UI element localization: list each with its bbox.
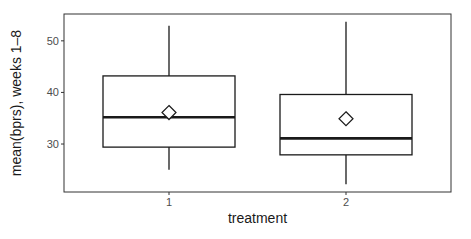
boxplot-chart: 304050 12 xyxy=(0,0,471,239)
x-axis: 12 xyxy=(166,192,349,208)
y-tick-label: 50 xyxy=(47,35,59,47)
x-tick-label: 2 xyxy=(343,196,349,208)
y-tick-label: 30 xyxy=(47,138,59,150)
x-tick-label: 1 xyxy=(166,196,172,208)
y-axis-title-text: mean(bprs), weeks 1–8 xyxy=(8,30,24,176)
y-axis: 304050 xyxy=(47,35,64,150)
y-tick-label: 40 xyxy=(47,86,59,98)
x-axis-title: treatment xyxy=(64,210,451,226)
y-axis-title: mean(bprs), weeks 1–8 xyxy=(4,14,28,192)
